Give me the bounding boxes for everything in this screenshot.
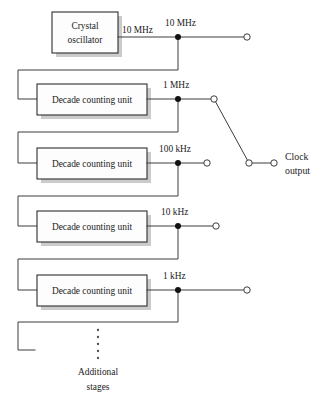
freq-label-oscillator-output: 10 MHz xyxy=(122,25,153,35)
junction-dot-10khz xyxy=(175,223,181,229)
terminal-1khz[interactable] xyxy=(244,287,250,293)
freq-label-100khz: 100 kHz xyxy=(159,144,191,154)
crystal-oscillator-block: Crystal oscillator xyxy=(52,12,122,57)
additional-stages-label-line2: stages xyxy=(87,382,110,392)
clock-output-label: Clock output xyxy=(285,151,310,176)
junction-dot-1khz xyxy=(175,287,181,293)
freq-label-1mhz: 1 MHz xyxy=(163,80,189,90)
terminal-100khz[interactable] xyxy=(204,160,210,166)
additional-stages: Additional stages xyxy=(78,329,118,392)
decade-unit-100khz-label: Decade counting unit xyxy=(52,159,133,169)
decade-unit-10khz-label: Decade counting unit xyxy=(52,222,133,232)
additional-stages-label-line1: Additional xyxy=(78,367,118,377)
crystal-oscillator-box xyxy=(52,12,118,53)
switch-arm[interactable] xyxy=(214,99,249,163)
junction-dot-100khz xyxy=(175,160,181,166)
junction-dot-1mhz xyxy=(175,96,181,102)
terminal-10khz[interactable] xyxy=(213,223,219,229)
selector-switch[interactable] xyxy=(211,96,277,166)
crystal-oscillator-label-line2: oscillator xyxy=(68,35,104,45)
clock-output-label-line1: Clock xyxy=(285,151,309,162)
junction-dot-10mhz xyxy=(175,34,181,40)
clock-output-label-line2: output xyxy=(285,165,310,176)
terminal-10mhz[interactable] xyxy=(244,34,250,40)
switch-contact-1mhz[interactable] xyxy=(211,96,217,102)
diagram-canvas: Crystal oscillator 10 MHz 10 MHz Decade … xyxy=(0,0,330,398)
block-diagram: Crystal oscillator 10 MHz 10 MHz Decade … xyxy=(0,0,330,398)
row-1khz: Decade counting unit 1 kHz xyxy=(18,271,250,350)
freq-label-10khz: 10 kHz xyxy=(161,207,188,217)
decade-unit-1khz-label: Decade counting unit xyxy=(52,286,133,296)
terminal-clock-output[interactable] xyxy=(271,160,277,166)
switch-pivot[interactable] xyxy=(246,160,252,166)
freq-label-10mhz: 10 MHz xyxy=(165,18,196,28)
vertical-ellipsis-icon xyxy=(97,329,99,359)
decade-unit-1mhz-label: Decade counting unit xyxy=(52,95,133,105)
freq-label-1khz: 1 kHz xyxy=(163,271,186,281)
crystal-oscillator-label-line1: Crystal xyxy=(71,21,98,31)
